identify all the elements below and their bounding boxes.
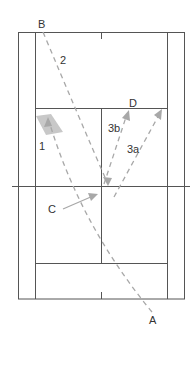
- label-3a: 3a: [127, 143, 140, 155]
- arrowhead-shot-3a-icon: [154, 109, 162, 120]
- arrowhead-movement-c-icon: [88, 193, 98, 201]
- label-1: 1: [39, 140, 45, 152]
- label-d: D: [129, 97, 137, 109]
- label-b: B: [38, 18, 45, 30]
- label-c: C: [48, 203, 56, 215]
- arrowheads: [44, 109, 162, 201]
- shot-path-3a: [114, 113, 160, 197]
- label-2: 2: [60, 54, 66, 66]
- arrowhead-shot-3b-icon: [122, 110, 130, 121]
- label-a: A: [149, 314, 157, 326]
- court-lines: [12, 33, 190, 300]
- court-diagram: B 2 D 1 3b 3a C A: [0, 0, 196, 367]
- shot-path-2: [43, 32, 107, 182]
- label-3b: 3b: [108, 122, 120, 134]
